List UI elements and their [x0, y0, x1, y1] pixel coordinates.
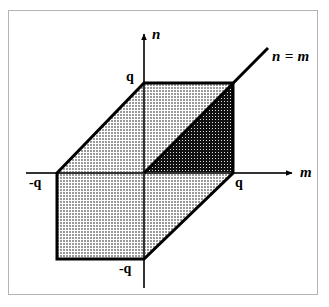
- diagonal-line-label: n = m: [272, 49, 310, 64]
- plot-canvas: [0, 0, 329, 307]
- n-axis-label: n: [152, 27, 160, 42]
- tick-label-negative-q-on-m-axis: -q: [29, 176, 41, 190]
- tick-label-q-on-m-axis: q: [235, 176, 243, 190]
- tick-label-negative-q-on-n-axis: -q: [119, 262, 131, 276]
- figure-root: n m n = m q q -q -q: [0, 0, 329, 307]
- tick-label-q-on-n-axis: q: [126, 70, 134, 84]
- m-axis-label: m: [300, 165, 312, 180]
